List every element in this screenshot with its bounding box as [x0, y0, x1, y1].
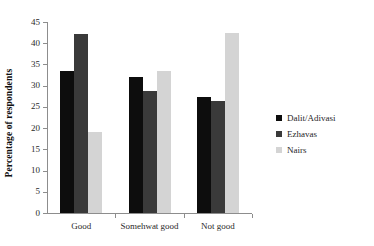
legend-swatch-icon [276, 115, 282, 121]
x-axis-tick-mark [115, 214, 116, 218]
y-axis-tick-mark [43, 171, 47, 172]
y-axis-tick-mark [43, 149, 47, 150]
y-axis-tick-label: 35 [31, 58, 40, 71]
y-axis-line [47, 22, 48, 214]
y-axis-tick-label: 15 [31, 143, 40, 156]
bar [211, 101, 225, 213]
bar [143, 91, 157, 213]
legend-swatch-icon [276, 131, 282, 137]
legend-item[interactable]: Ezhavas [276, 126, 372, 142]
bar [88, 132, 102, 213]
bar [225, 33, 239, 213]
y-axis-tick: 35 [43, 64, 47, 65]
y-axis-tick: 20 [43, 128, 47, 129]
chart-legend: Dalit/AdivasiEzhavasNairs [276, 110, 372, 158]
bar-group [60, 22, 102, 213]
legend-item[interactable]: Nairs [276, 142, 372, 158]
y-axis-tick-label: 30 [31, 79, 40, 92]
bar [157, 71, 171, 213]
y-axis-tick: 25 [43, 107, 47, 108]
legend-item-label: Dalit/Adivasi [287, 113, 336, 123]
y-axis-title-label: Percentage of respondents [4, 69, 14, 178]
x-axis-label: Good [71, 221, 91, 231]
y-axis-tick-label: 5 [36, 185, 41, 198]
x-axis-tick-mark [184, 214, 185, 218]
y-axis-tick-mark [43, 22, 47, 23]
legend-item[interactable]: Dalit/Adivasi [276, 110, 372, 126]
y-axis-tick-label: 25 [31, 100, 40, 113]
y-axis-tick-mark [43, 192, 47, 193]
y-axis-tick: 45 [43, 22, 47, 23]
bar [74, 34, 88, 213]
y-axis-tick: 30 [43, 86, 47, 87]
legend-item-label: Ezhavas [287, 129, 317, 139]
y-axis-tick: 40 [43, 43, 47, 44]
bar-chart-figure: Percentage of respondents 05101520253035… [0, 0, 374, 246]
y-axis-tick-mark [43, 128, 47, 129]
y-axis-tick-mark [43, 213, 47, 214]
y-axis-tick-mark [43, 86, 47, 87]
y-axis-tick: 15 [43, 149, 47, 150]
legend-swatch-icon [276, 147, 282, 153]
y-axis-tick-label: 45 [31, 16, 40, 29]
y-axis-tick-mark [43, 64, 47, 65]
x-axis-line [47, 213, 252, 214]
bar [197, 97, 211, 213]
x-axis-tick-mark [252, 214, 253, 218]
bar [129, 77, 143, 213]
bar-group [129, 22, 171, 213]
y-axis-tick-label: 10 [31, 164, 40, 177]
legend-item-label: Nairs [287, 145, 307, 155]
y-axis-tick-label: 0 [36, 207, 41, 220]
y-axis-tick: 5 [43, 192, 47, 193]
bar-group [197, 22, 239, 213]
y-axis-tick-label: 20 [31, 122, 40, 135]
x-axis-label: Not good [201, 221, 235, 231]
y-axis-tick: 10 [43, 171, 47, 172]
y-axis-tick: 0 [43, 213, 47, 214]
y-axis-tick-label: 40 [31, 37, 40, 50]
plot-area: 051015202530354045 [47, 22, 252, 214]
y-axis-title: Percentage of respondents [0, 0, 18, 246]
x-axis-label: Somehwat good [120, 221, 178, 231]
y-axis-tick-mark [43, 107, 47, 108]
y-axis-tick-mark [43, 43, 47, 44]
bar [60, 71, 74, 213]
